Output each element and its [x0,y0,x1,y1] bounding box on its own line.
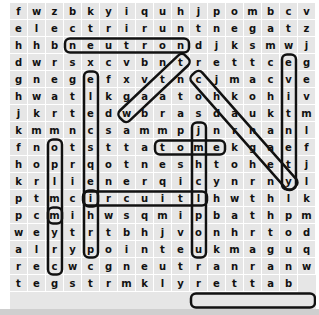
grid-cell[interactable]: r [100,20,118,37]
grid-cell[interactable]: u [244,105,262,122]
grid-cell[interactable]: a [154,88,172,105]
grid-cell[interactable]: b [118,224,136,241]
grid-cell[interactable]: g [262,241,280,258]
grid-cell[interactable]: k [82,3,100,20]
grid-cell[interactable]: i [118,241,136,258]
letter-grid[interactable]: fwzbkyiquhjpombcvelectriruntnegatzhhbneu… [10,3,316,309]
grid-cell[interactable]: t [262,224,280,241]
grid-cell[interactable]: n [64,122,82,139]
grid-cell[interactable]: j [298,37,316,54]
grid-cell[interactable]: h [10,37,28,54]
grid-cell[interactable]: e [82,105,100,122]
grid-cell[interactable]: q [82,156,100,173]
grid-cell[interactable]: h [190,156,208,173]
grid-cell[interactable]: m [154,122,172,139]
grid-cell[interactable]: v [172,224,190,241]
grid-cell[interactable]: c [64,190,82,207]
grid-cell[interactable]: t [244,190,262,207]
grid-cell[interactable]: k [28,105,46,122]
grid-cell[interactable]: m [46,207,64,224]
grid-cell[interactable]: t [208,156,226,173]
grid-cell[interactable]: l [28,20,46,37]
grid-cell[interactable]: d [100,105,118,122]
grid-cell[interactable]: t [82,275,100,292]
grid-cell[interactable]: f [10,139,28,156]
grid-cell[interactable]: e [226,20,244,37]
grid-cell[interactable]: t [280,156,298,173]
grid-cell[interactable]: o [280,224,298,241]
grid-cell[interactable]: h [208,190,226,207]
grid-cell[interactable]: o [244,88,262,105]
grid-cell[interactable]: e [82,71,100,88]
grid-cell[interactable]: t [64,88,82,105]
grid-cell[interactable]: y [172,275,190,292]
grid-cell[interactable]: i [64,173,82,190]
grid-cell[interactable]: r [46,54,64,71]
grid-cell[interactable]: w [10,224,28,241]
grid-cell[interactable]: a [226,207,244,224]
grid-cell[interactable]: m [298,105,316,122]
grid-cell[interactable]: r [190,275,208,292]
grid-cell[interactable]: n [136,156,154,173]
grid-cell[interactable]: e [82,173,100,190]
grid-cell[interactable]: o [154,37,172,54]
grid-cell[interactable]: e [208,275,226,292]
grid-cell[interactable]: m [190,139,208,156]
grid-cell[interactable]: a [262,139,280,156]
grid-cell[interactable]: h [28,37,46,54]
grid-cell[interactable]: e [172,241,190,258]
grid-cell[interactable]: r [136,37,154,54]
grid-cell[interactable]: e [10,20,28,37]
grid-cell[interactable]: q [154,173,172,190]
grid-cell[interactable]: w [100,207,118,224]
grid-cell[interactable]: m [28,122,46,139]
grid-cell[interactable]: e [82,37,100,54]
grid-cell[interactable]: w [28,3,46,20]
grid-cell[interactable]: l [154,275,172,292]
grid-cell[interactable]: m [226,241,244,258]
grid-cell[interactable]: a [244,241,262,258]
grid-cell[interactable]: a [262,258,280,275]
grid-cell[interactable]: v [136,71,154,88]
grid-cell[interactable]: r [100,190,118,207]
grid-cell[interactable]: l [298,173,316,190]
grid-cell[interactable]: n [280,122,298,139]
grid-cell[interactable]: d [298,224,316,241]
grid-cell[interactable]: u [100,37,118,54]
grid-cell[interactable]: i [118,3,136,20]
grid-cell[interactable]: k [226,37,244,54]
grid-cell[interactable]: k [226,88,244,105]
grid-cell[interactable]: r [154,105,172,122]
grid-cell[interactable]: u [154,3,172,20]
grid-cell[interactable]: s [118,207,136,224]
grid-cell[interactable]: l [28,241,46,258]
grid-cell[interactable]: c [82,258,100,275]
grid-cell[interactable]: w [298,258,316,275]
grid-cell[interactable]: b [262,3,280,20]
grid-cell[interactable]: e [28,224,46,241]
grid-cell[interactable]: n [262,173,280,190]
grid-cell[interactable]: p [190,207,208,224]
grid-cell[interactable]: t [226,54,244,71]
grid-cell[interactable]: r [136,20,154,37]
grid-cell[interactable]: r [64,156,82,173]
grid-cell[interactable]: t [280,20,298,37]
grid-cell[interactable]: w [28,88,46,105]
grid-cell[interactable]: r [46,105,64,122]
grid-cell[interactable]: b [208,207,226,224]
grid-cell[interactable]: e [208,54,226,71]
grid-cell[interactable]: u [154,258,172,275]
grid-cell[interactable]: c [46,258,64,275]
grid-cell[interactable]: z [298,20,316,37]
grid-cell[interactable]: e [28,258,46,275]
grid-cell[interactable]: t [280,105,298,122]
grid-cell[interactable]: y [208,173,226,190]
grid-cell[interactable]: m [154,207,172,224]
grid-cell[interactable]: n [64,37,82,54]
grid-cell[interactable]: t [100,224,118,241]
grid-cell[interactable]: d [10,54,28,71]
grid-cell[interactable]: n [118,258,136,275]
grid-cell[interactable]: i [172,173,190,190]
grid-cell[interactable]: t [154,139,172,156]
grid-cell[interactable]: a [262,275,280,292]
